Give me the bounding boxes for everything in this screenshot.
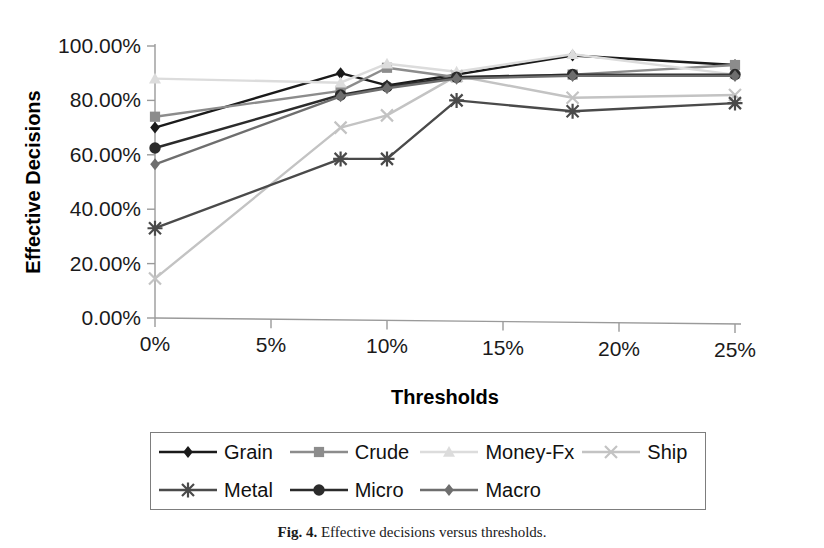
y-axis-tick-label: 20.00% — [70, 252, 141, 275]
x-axis-title: Thresholds — [391, 386, 499, 408]
asterisk-shape — [148, 221, 163, 236]
legend-item-grain[interactable]: Grain — [151, 441, 282, 464]
asterisk-marker — [449, 93, 464, 108]
legend-item-label: Ship — [647, 441, 687, 464]
asterisk-shape — [181, 483, 196, 498]
figure-container: 0.00%20.00%40.00%60.00%80.00%100.00%0%5%… — [0, 0, 824, 548]
diamond-marker — [418, 479, 480, 501]
legend-item-micro[interactable]: Micro — [282, 479, 413, 502]
y-axis-tick-label: 0.00% — [81, 306, 141, 329]
asterisk-shape — [380, 151, 395, 166]
asterisk-marker — [565, 104, 580, 119]
series-macro — [150, 70, 740, 170]
y-axis-tick-label: 60.00% — [70, 143, 141, 166]
diamond-marker — [445, 484, 455, 496]
square-marker — [288, 441, 350, 463]
diamond-marker — [157, 441, 219, 463]
diamond-shape — [150, 158, 160, 170]
diamond-marker — [150, 122, 160, 134]
triangle-marker — [418, 441, 480, 463]
series-line — [155, 56, 735, 128]
asterisk-shape — [333, 151, 348, 166]
x-axis-tick-label: 20% — [598, 337, 640, 360]
chart-plot-area: 0.00%20.00%40.00%60.00%80.00%100.00%0%5%… — [0, 0, 824, 420]
legend-item-label: Grain — [224, 441, 273, 464]
y-axis-tick-label: 40.00% — [70, 197, 141, 220]
series-line — [155, 76, 735, 164]
x-axis-tick-label: 25% — [714, 338, 756, 361]
diamond-marker — [183, 446, 193, 458]
legend-item-money-fx[interactable]: Money-Fx — [412, 441, 574, 464]
legend-item-ship[interactable]: Ship — [574, 441, 705, 464]
x-axis-tick-label: 10% — [366, 334, 408, 357]
legend-item-crude[interactable]: Crude — [282, 441, 413, 464]
diamond-marker — [150, 158, 160, 170]
y-axis-tick-label: 80.00% — [70, 88, 141, 111]
diamond-shape — [183, 446, 193, 458]
circle-marker — [149, 142, 160, 153]
asterisk-marker — [157, 479, 219, 501]
line-chart: 0.00%20.00%40.00%60.00%80.00%100.00%0%5%… — [0, 0, 824, 420]
asterisk-shape — [449, 93, 464, 108]
asterisk-marker — [728, 96, 743, 111]
legend-item-label: Micro — [355, 479, 404, 502]
circle-shape — [313, 484, 324, 495]
square-shape — [314, 447, 324, 457]
y-axis-title: Effective Decisions — [22, 90, 44, 273]
legend-item-label: Crude — [355, 441, 409, 464]
circle-shape — [149, 142, 160, 153]
circle-marker — [313, 484, 324, 495]
asterisk-marker — [380, 151, 395, 166]
asterisk-marker — [148, 221, 163, 236]
circle-marker — [288, 479, 350, 501]
square-marker — [314, 447, 324, 457]
asterisk-marker — [333, 151, 348, 166]
series-grain — [150, 50, 740, 134]
legend-item-macro[interactable]: Macro — [412, 479, 574, 502]
chart-legend: GrainCrudeMoney-FxShipMetalMicroMacro — [150, 432, 706, 510]
x-axis-line — [155, 318, 741, 324]
caption-text: Effective decisions versus thresholds. — [321, 524, 547, 540]
legend-item-metal[interactable]: Metal — [151, 479, 282, 502]
cross-x-marker — [580, 441, 642, 463]
diamond-shape — [150, 122, 160, 134]
y-axis-tick-label: 100.00% — [58, 34, 141, 57]
series-crude — [150, 60, 740, 122]
x-axis-tick-label: 5% — [256, 333, 286, 356]
series-metal — [148, 93, 743, 236]
legend-item-label: Metal — [224, 479, 273, 502]
x-axis-tick-label: 15% — [482, 336, 524, 359]
legend-item-label: Macro — [485, 479, 541, 502]
diamond-shape — [445, 484, 455, 496]
square-shape — [150, 112, 160, 122]
legend-item-label: Money-Fx — [485, 441, 574, 464]
x-axis-tick-label: 0% — [140, 332, 170, 355]
caption-label: Fig. 4. — [278, 524, 318, 540]
figure-caption: Fig. 4. Effective decisions versus thres… — [0, 524, 824, 541]
square-marker — [150, 112, 160, 122]
asterisk-marker — [181, 483, 196, 498]
asterisk-shape — [565, 104, 580, 119]
asterisk-shape — [728, 96, 743, 111]
